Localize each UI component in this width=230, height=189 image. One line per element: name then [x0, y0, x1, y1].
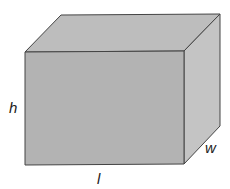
prism-diagram: h l w: [0, 0, 230, 189]
length-label: l: [97, 170, 101, 187]
height-label: h: [9, 99, 17, 116]
front-face: [25, 51, 184, 165]
width-label: w: [205, 139, 217, 156]
